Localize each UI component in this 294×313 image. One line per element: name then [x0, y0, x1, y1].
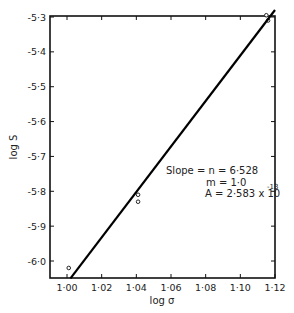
- y-tick-label: -5·4: [27, 46, 46, 57]
- annotation-m: m = 1·0: [206, 177, 246, 188]
- data-point: [67, 266, 71, 270]
- data-series: [67, 10, 275, 278]
- annotation-slope: Slope = n = 6·528: [166, 165, 258, 176]
- y-tick-label: -5·6: [27, 116, 46, 127]
- x-tick-label: 1·08: [195, 282, 216, 293]
- x-axis-label: log σ: [150, 295, 175, 306]
- x-tick-label: 1·02: [91, 282, 112, 293]
- x-tick-label: 1·00: [56, 282, 77, 293]
- x-tick-label: 1·06: [160, 282, 181, 293]
- x-tick-label: 1·12: [264, 282, 285, 293]
- data-point: [265, 13, 269, 17]
- annotation-a-exponent: -13: [267, 183, 278, 191]
- data-point: [136, 200, 140, 204]
- y-tick-label: -5·8: [27, 186, 46, 197]
- y-tick-label: -6·0: [27, 256, 46, 267]
- y-tick-label: -5·7: [27, 151, 46, 162]
- y-tick-label: -5·9: [27, 221, 46, 232]
- y-tick-label: -5·3: [27, 12, 46, 23]
- x-tick-label: 1·10: [230, 282, 251, 293]
- x-tick-label: 1·04: [126, 282, 147, 293]
- y-tick-label: -5·5: [27, 81, 46, 92]
- chart: 1·001·021·041·061·081·101·12 -5·3-5·4-5·…: [0, 0, 294, 313]
- y-axis-label: log S: [8, 135, 19, 160]
- fit-line: [70, 10, 275, 278]
- y-axis-ticks: -5·3-5·4-5·5-5·6-5·7-5·8-5·9-6·0: [27, 12, 275, 267]
- data-point: [136, 193, 140, 197]
